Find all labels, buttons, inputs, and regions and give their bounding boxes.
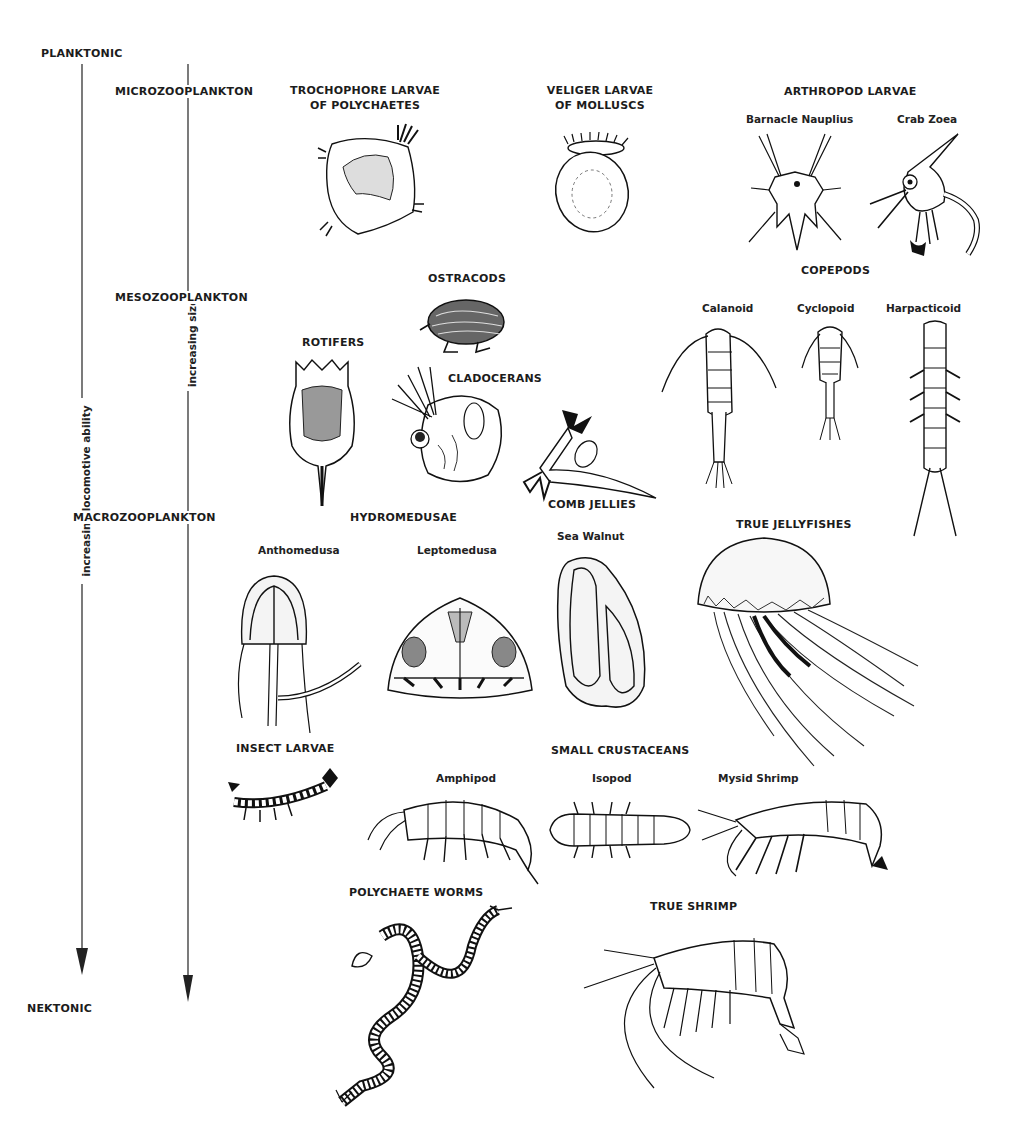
calanoid-copepod-illustration xyxy=(660,322,780,492)
cyclopoid-label: Cyclopoid xyxy=(797,302,854,314)
copepods-title: COPEPODS xyxy=(801,264,870,277)
trochophore-line2: OF POLYCHAETES xyxy=(290,98,440,113)
true-shrimp-illustration xyxy=(584,928,814,1098)
microzooplankton-label: MICROZOOPLANKTON xyxy=(115,85,253,98)
calanoid-label: Calanoid xyxy=(702,302,753,314)
size-axis-label: increasing size xyxy=(186,301,198,391)
macrozooplankton-label: MACROZOOPLANKTON xyxy=(73,511,216,524)
veliger-line2: OF MOLLUSCS xyxy=(540,98,660,113)
amphipod-label: Amphipod xyxy=(436,772,496,784)
trochophore-larva-illustration xyxy=(318,122,428,242)
true-jellyfish-illustration xyxy=(694,536,924,776)
trochophore-line1: TROCHOPHORE LARVAE xyxy=(290,83,440,98)
trochophore-title: TROCHOPHORE LARVAE OF POLYCHAETES xyxy=(290,83,440,113)
crab-zoea-illustration xyxy=(868,132,998,262)
insect-larvae-title: INSECT LARVAE xyxy=(236,742,335,755)
mysid-shrimp-label: Mysid Shrimp xyxy=(718,772,799,784)
rotifers-title: ROTIFERS xyxy=(302,336,364,349)
insect-larva-illustration xyxy=(226,768,346,823)
small-crustaceans-title: SMALL CRUSTACEANS xyxy=(551,744,689,757)
veliger-larva-illustration xyxy=(548,132,638,242)
polychaete-worms-title: POLYCHAETE WORMS xyxy=(349,886,483,899)
cladoceran-2-illustration xyxy=(520,408,660,508)
sea-walnut-label: Sea Walnut xyxy=(557,530,624,542)
ostracod-illustration xyxy=(418,296,508,356)
harpacticoid-copepod-illustration xyxy=(900,318,970,548)
anthomedusa-label: Anthomedusa xyxy=(258,544,340,556)
isopod-illustration xyxy=(544,800,694,860)
leptomedusa-label: Leptomedusa xyxy=(417,544,497,556)
leptomedusa-illustration xyxy=(384,594,534,704)
mesozooplankton-label: MESOZOOPLANKTON xyxy=(115,291,248,304)
polychaete-worm-illustration xyxy=(322,906,522,1106)
ostracods-title: OSTRACODS xyxy=(428,272,506,285)
isopod-label: Isopod xyxy=(592,772,632,784)
rotifer-illustration xyxy=(282,356,362,508)
harpacticoid-label: Harpacticoid xyxy=(886,302,961,314)
veliger-line1: VELIGER LARVAE xyxy=(540,83,660,98)
crab-zoea-label: Crab Zoea xyxy=(897,113,957,125)
cyclopoid-copepod-illustration xyxy=(800,322,860,442)
veliger-title: VELIGER LARVAE OF MOLLUSCS xyxy=(540,83,660,113)
mysid-shrimp-illustration xyxy=(696,790,896,880)
sea-walnut-illustration xyxy=(550,556,660,716)
locomotive-axis-label: increasing locomotive ability xyxy=(80,398,92,584)
amphipod-illustration xyxy=(368,790,548,885)
true-jellyfishes-title: TRUE JELLYFISHES xyxy=(736,518,852,531)
barnacle-nauplius-label: Barnacle Nauplius xyxy=(746,113,853,125)
anthomedusa-illustration xyxy=(230,568,370,733)
barnacle-nauplius-illustration xyxy=(745,132,845,252)
arthropod-larvae-title: ARTHROPOD LARVAE xyxy=(784,85,916,98)
cladoceran-illustration xyxy=(388,365,518,495)
comb-jellies-title: COMB JELLIES xyxy=(548,498,636,511)
true-shrimp-title: TRUE SHRIMP xyxy=(650,900,737,913)
hydromedusae-title: HYDROMEDUSAE xyxy=(350,511,457,524)
